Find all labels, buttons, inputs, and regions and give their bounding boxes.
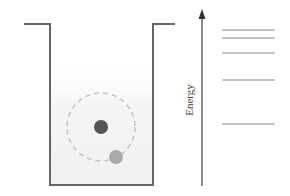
energy-axis-label: Energy (183, 84, 195, 116)
energy-levels (222, 30, 275, 124)
nucleus (94, 120, 108, 134)
quantum-well-energy-diagram: Energy (0, 0, 290, 196)
electron (109, 150, 123, 164)
energy-axis-arrowhead-icon (199, 9, 206, 19)
